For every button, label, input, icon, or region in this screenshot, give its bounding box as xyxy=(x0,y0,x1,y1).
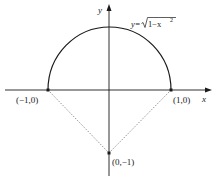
point-0-minus1 xyxy=(108,152,111,155)
point-label-minus1-0: (−1,0) xyxy=(16,95,38,105)
point-label-1-0: (1,0) xyxy=(173,95,190,105)
y-axis-arrow-icon xyxy=(107,4,112,11)
diagram-canvas: y x (−1,0) (1,0) (0,−1) y= 1−x 2 xyxy=(0,0,217,178)
y-axis-label: y xyxy=(97,5,102,15)
equation-exponent: 2 xyxy=(170,17,173,23)
point-1-0 xyxy=(170,89,173,92)
curve-equation-label: y= 1−x 2 xyxy=(130,17,176,29)
x-axis-arrow-icon xyxy=(205,88,212,93)
point-label-0-minus1: (0,−1) xyxy=(112,157,134,167)
equation-lhs: y= xyxy=(130,19,141,29)
dotted-segment-left xyxy=(48,90,109,153)
dotted-segment-right xyxy=(109,90,171,153)
point-minus1-0 xyxy=(47,89,50,92)
semicircle-curve xyxy=(48,27,171,90)
x-axis xyxy=(5,88,212,93)
x-axis-label: x xyxy=(201,94,206,104)
equation-radicand: 1−x xyxy=(148,19,162,29)
